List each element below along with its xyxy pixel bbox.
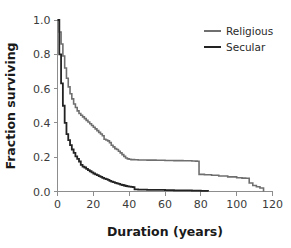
x-tick-label: 60 [158, 198, 172, 211]
x-tick-label: 20 [86, 198, 100, 211]
y-axis-title: Fraction surviving [3, 42, 18, 169]
y-tick-label: 0.4 [33, 117, 51, 130]
y-tick-label: 0.6 [33, 83, 51, 96]
legend-label-religious: Religious [226, 25, 273, 37]
x-tick-label: 40 [122, 198, 136, 211]
x-tick-marks [58, 192, 273, 196]
survival-curve-plot: 0.00.20.40.60.81.0 020406080100120 Durat… [0, 0, 291, 248]
series-line-secular [58, 20, 209, 192]
x-tick-labels: 020406080100120 [54, 198, 283, 211]
y-tick-label: 0.8 [33, 48, 51, 61]
legend-label-secular: Secular [226, 41, 266, 53]
y-tick-label: 0.2 [33, 151, 51, 164]
y-tick-labels: 0.00.20.40.60.81.0 [33, 14, 51, 199]
x-tick-label: 0 [54, 198, 61, 211]
chart-legend: ReligiousSecular [204, 25, 273, 53]
y-tick-label: 0.0 [33, 186, 51, 199]
chart-figure: 0.00.20.40.60.81.0 020406080100120 Durat… [0, 0, 291, 248]
y-tick-label: 1.0 [33, 14, 51, 27]
x-tick-label: 120 [262, 198, 283, 211]
x-axis-title: Duration (years) [107, 224, 223, 239]
y-tick-marks [54, 20, 58, 192]
x-tick-label: 100 [226, 198, 247, 211]
x-tick-label: 80 [194, 198, 208, 211]
